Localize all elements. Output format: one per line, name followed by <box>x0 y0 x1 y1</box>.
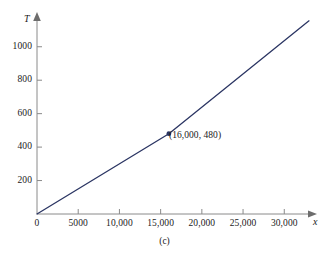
figure-caption: (c) <box>0 236 329 246</box>
y-axis-tick-label: 600 <box>17 109 32 119</box>
data-series-line <box>37 21 309 214</box>
data-point-annotation: (16,000, 480) <box>169 130 221 140</box>
chart-plot <box>0 0 329 255</box>
y-axis-label: T <box>24 13 30 24</box>
figure-container: 2004006008001000 0500010,00015,00020,000… <box>0 0 329 255</box>
y-axis-tick-label: 400 <box>17 142 32 152</box>
y-axis-arrow-icon <box>33 12 41 21</box>
y-axis-tick-label: 1000 <box>13 42 32 52</box>
x-axis-tick-marks <box>78 209 284 214</box>
y-axis-tick-label: 200 <box>17 176 32 186</box>
y-axis-tick-label: 800 <box>17 75 32 85</box>
x-axis-label: x <box>313 216 317 227</box>
y-axis-tick-marks <box>37 47 42 181</box>
